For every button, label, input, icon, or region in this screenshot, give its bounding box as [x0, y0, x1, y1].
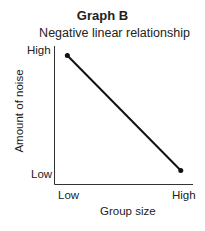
x-axis-label: Group size: [100, 205, 156, 217]
x-tick-low: Low: [58, 189, 79, 201]
y-tick-low: Low: [31, 168, 52, 180]
y-tick-high: High: [27, 44, 51, 56]
data-point-end: [178, 168, 183, 173]
data-line: [67, 56, 180, 171]
y-axis-label: Amount of noise: [13, 61, 25, 161]
data-point-start: [65, 53, 70, 58]
x-tick-high: High: [172, 189, 196, 201]
